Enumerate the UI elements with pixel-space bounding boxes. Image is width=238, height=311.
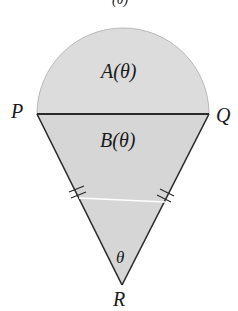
vertex-r-label: R bbox=[112, 288, 125, 310]
triangle-label: B(θ) bbox=[100, 129, 136, 152]
angle-label: θ bbox=[116, 248, 124, 267]
semicircle-triangle-diagram: (θ) A(θ) B(θ) θ P Q R bbox=[0, 0, 238, 311]
vertex-q-label: Q bbox=[216, 104, 231, 126]
vertex-p-label: P bbox=[10, 100, 23, 122]
semicircle-label: A(θ) bbox=[99, 60, 137, 83]
top-cut-text: (θ) bbox=[112, 0, 129, 8]
